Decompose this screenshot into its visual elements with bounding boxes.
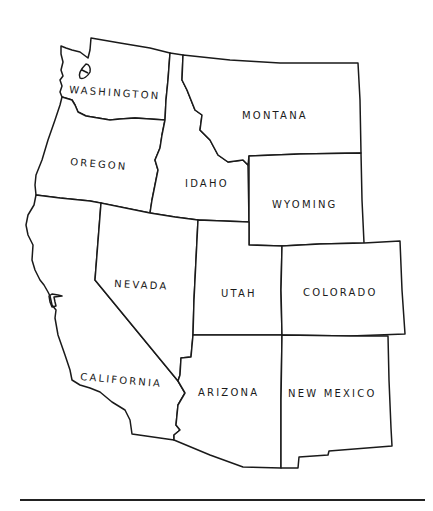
western-states-map: WASHINGTON OREGON CALIFORNIA IDAHO MONTA… bbox=[0, 0, 433, 511]
state-colorado[interactable] bbox=[281, 241, 405, 336]
state-new-mexico[interactable] bbox=[281, 335, 392, 468]
state-wyoming[interactable] bbox=[249, 153, 364, 246]
